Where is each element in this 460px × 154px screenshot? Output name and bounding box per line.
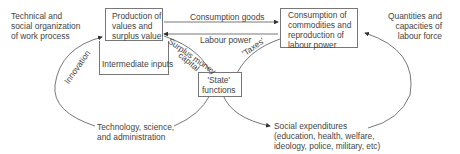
intermediate-inputs-label: Intermediate inputs xyxy=(102,59,173,69)
state-functions-label: 'State' functions xyxy=(202,75,236,95)
production-label: Production of values and surplus value xyxy=(112,11,161,41)
intermediate-inputs-box: Intermediate inputs xyxy=(99,41,169,75)
production-box: Production of values and surplus value xyxy=(105,8,163,41)
labour-power-label: Labour power xyxy=(200,35,251,45)
state-functions-box: 'State' functions xyxy=(198,72,242,97)
quantities-label: Quantities and capacities of labour forc… xyxy=(388,11,442,41)
consumption-box: Consumption of commodities and reproduct… xyxy=(280,8,358,48)
consumption-label: Consumption of commodities and reproduct… xyxy=(288,10,351,50)
consumption-goods-label: Consumption goods xyxy=(190,12,265,22)
technology-label: Technology, science, and administration xyxy=(97,122,174,142)
capital-circuit-diagram: Production of values and surplus value I… xyxy=(0,0,460,154)
social-expenditures-label: Social expenditures (education, health, … xyxy=(274,121,380,151)
technical-organization-label: Technical and social organization of wor… xyxy=(11,11,80,41)
